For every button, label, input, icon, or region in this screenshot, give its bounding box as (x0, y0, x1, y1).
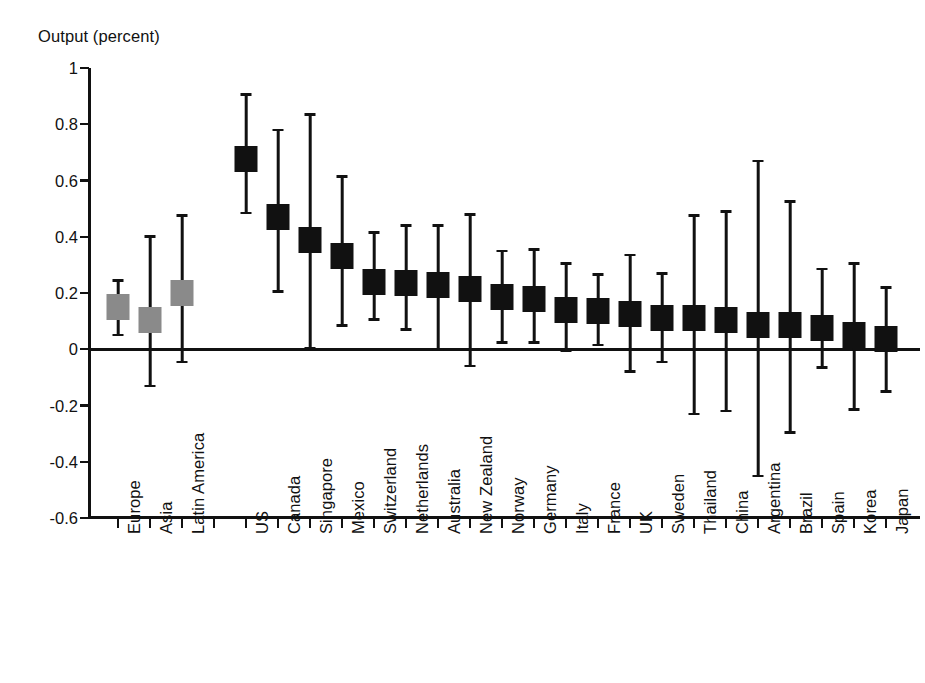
x-axis-tick (661, 518, 663, 528)
x-axis-tick (245, 518, 247, 528)
y-axis-tick (80, 179, 89, 181)
point-marker (427, 272, 450, 298)
x-axis-tick (277, 518, 279, 528)
x-axis-tick (213, 518, 215, 528)
lower-cap (401, 328, 412, 331)
x-axis-tick (885, 518, 887, 528)
upper-cap (785, 200, 796, 203)
y-axis-tick-label: 0 (69, 340, 78, 359)
y-axis-tick (80, 67, 89, 69)
point-marker (139, 307, 162, 333)
lower-cap (625, 370, 636, 373)
x-axis-tick (789, 518, 791, 528)
x-axis-tick (853, 518, 855, 528)
point-marker (875, 326, 898, 352)
upper-cap (817, 268, 828, 271)
x-axis-label-china: China (733, 490, 752, 534)
y-axis-tick-label: -0.4 (50, 452, 78, 471)
x-axis-label-singapore: Singapore (317, 458, 336, 534)
lower-cap (753, 475, 764, 478)
x-axis-label-germany: Germany (541, 465, 560, 534)
point-marker (779, 312, 802, 338)
x-axis-tick (341, 518, 343, 528)
lower-cap (561, 349, 572, 352)
lower-cap (465, 365, 476, 368)
lower-cap (529, 341, 540, 344)
x-axis-label-switzerland: Switzerland (381, 448, 400, 534)
lower-cap (113, 334, 124, 337)
x-axis-tick (821, 518, 823, 528)
x-axis-label-france: France (605, 482, 624, 534)
x-axis-label-italy: Italy (573, 503, 592, 534)
upper-cap (465, 213, 476, 216)
lower-cap (657, 361, 668, 364)
x-axis-tick (597, 518, 599, 528)
lower-cap (817, 366, 828, 369)
x-axis-tick (469, 518, 471, 528)
point-marker (299, 227, 322, 253)
point-marker (715, 307, 738, 333)
lower-cap (721, 410, 732, 413)
y-axis-tick (80, 292, 89, 294)
lower-cap (881, 390, 892, 393)
output-percent-chart: Output (percent) 10.80.60.40.20-0.2-0.4-… (0, 0, 925, 683)
point-marker (171, 280, 194, 306)
upper-cap (369, 231, 380, 234)
x-axis-label-us: US (253, 511, 272, 534)
lower-cap (145, 385, 156, 388)
upper-cap (721, 210, 732, 213)
x-axis-tick (501, 518, 503, 528)
x-axis-label-norway: Norway (509, 477, 528, 534)
lower-cap (305, 347, 316, 350)
point-marker (331, 243, 354, 269)
x-axis-tick (533, 518, 535, 528)
point-marker (459, 276, 482, 302)
upper-cap (561, 262, 572, 265)
lower-cap (177, 361, 188, 364)
x-axis-tick (117, 518, 119, 528)
x-axis-label-latin-america: Latin America (189, 433, 208, 534)
lower-cap (369, 318, 380, 321)
upper-cap (593, 273, 604, 276)
zero-line (88, 348, 920, 351)
y-axis-tick (80, 461, 89, 463)
lower-cap (433, 348, 444, 351)
point-marker (555, 297, 578, 323)
upper-cap (401, 224, 412, 227)
x-axis-tick (181, 518, 183, 528)
point-marker (491, 284, 514, 310)
lower-cap (337, 324, 348, 327)
point-marker (235, 146, 258, 172)
upper-cap (625, 254, 636, 257)
y-axis-tick-label: 0.4 (55, 227, 78, 246)
upper-cap (337, 175, 348, 178)
upper-cap (689, 214, 700, 217)
lower-cap (849, 408, 860, 411)
upper-cap (497, 250, 508, 253)
lower-cap (241, 212, 252, 215)
x-axis-label-spain: Spain (829, 491, 848, 534)
x-axis-label-canada: Canada (285, 476, 304, 534)
x-axis-label-new-zealand: New Zealand (477, 436, 496, 534)
y-axis-tick (80, 517, 89, 519)
upper-cap (305, 113, 316, 116)
point-marker (267, 204, 290, 230)
point-marker (651, 305, 674, 331)
upper-cap (881, 286, 892, 289)
point-marker (523, 286, 546, 312)
point-marker (619, 301, 642, 327)
point-marker (107, 294, 130, 320)
x-axis-label-australia: Australia (445, 469, 464, 534)
y-axis-tick-label: -0.6 (50, 509, 78, 528)
y-axis-tick (80, 236, 89, 238)
upper-cap (145, 235, 156, 238)
lower-cap (273, 290, 284, 293)
lower-cap (689, 413, 700, 416)
x-axis-tick (693, 518, 695, 528)
x-axis-tick (405, 518, 407, 528)
x-axis-label-asia: Asia (157, 502, 176, 535)
x-axis-label-europe: Europe (125, 480, 144, 534)
upper-cap (433, 224, 444, 227)
point-marker (811, 315, 834, 341)
x-axis-label-thailand: Thailand (701, 470, 720, 534)
